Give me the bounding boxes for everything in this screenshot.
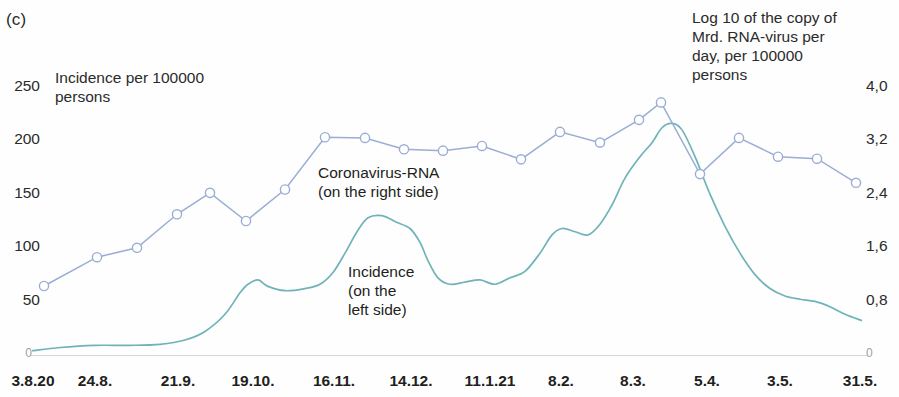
- rna-data-point: [438, 146, 447, 155]
- series-rna-line: [44, 102, 856, 286]
- rna-data-point: [773, 152, 782, 161]
- y-left-tick: 200: [0, 130, 40, 148]
- rna-data-point: [695, 170, 704, 179]
- y-right-tick: 3,2: [866, 130, 888, 148]
- y-left-tick: 0: [12, 346, 32, 360]
- x-axis-tick: 5.4.: [694, 372, 720, 390]
- rna-data-point: [205, 188, 214, 197]
- rna-data-point: [477, 141, 486, 150]
- plot-area: [0, 0, 899, 397]
- rna-data-point: [656, 98, 665, 107]
- x-axis-tick: 31.5.: [843, 372, 877, 390]
- y-right-tick: 2,4: [866, 184, 888, 202]
- x-axis-tick: 11.1.21: [465, 372, 516, 390]
- rna-data-point: [595, 138, 604, 147]
- rna-data-point: [399, 145, 408, 154]
- y-left-tick: 50: [0, 291, 40, 309]
- y-right-tick: 4,0: [866, 77, 888, 95]
- rna-curve: [44, 102, 856, 286]
- rna-data-point: [555, 127, 564, 136]
- rna-data-point: [851, 178, 860, 187]
- rna-data-point: [39, 281, 48, 290]
- x-axis-tick: 19.10.: [231, 372, 274, 390]
- x-axis-tick: 16.11.: [313, 372, 355, 390]
- incidence-curve: [32, 123, 862, 350]
- x-axis-tick: 14.12.: [389, 372, 432, 390]
- rna-data-point: [320, 133, 329, 142]
- series-rna-markers: [39, 98, 860, 291]
- y-right-tick: 0,8: [866, 291, 888, 309]
- x-axis-tick: 24.8.: [78, 372, 112, 390]
- x-axis-tick: 3.8.20: [11, 372, 54, 390]
- y-right-tick: 0: [866, 346, 873, 360]
- x-axis-tick: 8.3.: [620, 372, 646, 390]
- rna-data-point: [241, 216, 250, 225]
- rna-data-point: [516, 155, 525, 164]
- rna-data-point: [812, 154, 821, 163]
- y-left-tick: 150: [0, 184, 40, 202]
- rna-data-point: [172, 210, 181, 219]
- rna-data-point: [734, 133, 743, 142]
- rna-data-point: [634, 115, 643, 124]
- x-axis-tick: 21.9.: [161, 372, 195, 390]
- rna-data-point: [132, 243, 141, 252]
- x-axis-tick: 3.5.: [767, 372, 793, 390]
- rna-data-point: [360, 133, 369, 142]
- y-left-tick: 100: [0, 237, 40, 255]
- rna-data-point: [280, 185, 289, 194]
- rna-data-point: [92, 253, 101, 262]
- series-incidence-line: [32, 123, 862, 350]
- y-left-tick: 250: [0, 77, 40, 95]
- figure-panel-c: (c) Incidence per 100000 persons Log 10 …: [0, 0, 899, 397]
- x-axis-tick: 8.2.: [548, 372, 574, 390]
- y-right-tick: 1,6: [866, 237, 888, 255]
